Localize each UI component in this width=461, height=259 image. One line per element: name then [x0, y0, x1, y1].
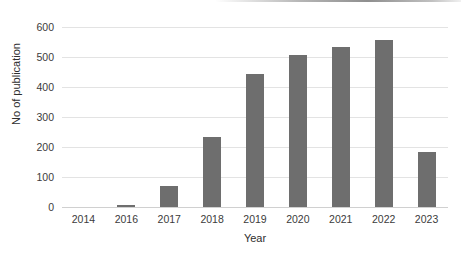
bar-slot: [234, 27, 277, 207]
bar: [117, 205, 135, 207]
bar-slot: [148, 27, 191, 207]
x-axis-tick-label: 2019: [243, 213, 266, 225]
x-axis-title: Year: [62, 232, 448, 244]
y-axis-tick-label: 200: [12, 142, 54, 153]
y-axis-tick-label: 400: [12, 82, 54, 93]
bar: [246, 74, 264, 207]
gridline: [62, 207, 448, 208]
x-axis-tick-label: 2014: [72, 213, 95, 225]
x-axis-tick-label: 2020: [286, 213, 309, 225]
y-axis-tick-label: 100: [12, 172, 54, 183]
bar-slot: [191, 27, 234, 207]
bar-slot: [362, 27, 405, 207]
bars-group: [62, 27, 448, 207]
bar-slot: [105, 27, 148, 207]
bar-chart-screenshot: No of publication 0100200300400500600 20…: [0, 0, 461, 259]
bar-slot: [405, 27, 448, 207]
bar: [289, 55, 307, 207]
y-axis-tick-label: 500: [12, 52, 54, 63]
bar-slot: [319, 27, 362, 207]
y-axis-tick-label: 0: [12, 202, 54, 213]
y-axis-tick-label: 300: [12, 112, 54, 123]
x-axis-tick-labels: 201420162017201820192020202120222023: [62, 213, 448, 227]
x-axis-tick-label: 2016: [115, 213, 138, 225]
bar: [418, 152, 436, 207]
y-axis-tick-label: 600: [12, 22, 54, 33]
scan-line-artifact: [215, 0, 461, 2]
bar: [375, 40, 393, 207]
x-axis-tick-label: 2022: [372, 213, 395, 225]
y-axis-tick-labels: 0100200300400500600: [8, 27, 54, 207]
bar: [160, 186, 178, 207]
bar-slot: [276, 27, 319, 207]
bar-slot: [62, 27, 105, 207]
x-axis-tick-label: 2021: [329, 213, 352, 225]
bar: [332, 47, 350, 208]
plot-area: [62, 27, 448, 207]
bar: [203, 137, 221, 207]
x-axis-tick-label: 2017: [158, 213, 181, 225]
x-axis-tick-label: 2018: [200, 213, 223, 225]
x-axis-tick-label: 2023: [415, 213, 438, 225]
